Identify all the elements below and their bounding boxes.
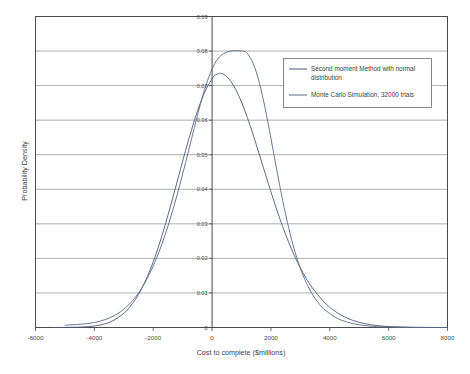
- x-tick-label: -2000: [145, 334, 161, 341]
- chart-canvas: -6000-4000-200002000400060008000 00.010.…: [0, 0, 470, 374]
- y-tick-label: 0.09: [197, 14, 208, 20]
- legend-label-second-moment-line2: distribution: [311, 74, 342, 81]
- y-tick-label: 0: [204, 325, 207, 331]
- y-tick-label: 0.05: [197, 152, 208, 158]
- x-tick-label: 8000: [441, 334, 455, 341]
- chart-background: [0, 0, 470, 374]
- y-tick-label: 0.02: [197, 255, 208, 261]
- y-tick-label: 0.08: [197, 48, 208, 54]
- legend-label-monte-carlo: Monte Carlo Simulation, 32000 trials: [311, 91, 414, 98]
- y-tick-label: 0.06: [197, 117, 208, 123]
- x-tick-label: -6000: [28, 334, 44, 341]
- x-tick-label: -4000: [86, 334, 102, 341]
- probability-density-chart: -6000-4000-200002000400060008000 00.010.…: [0, 0, 470, 374]
- y-tick-label: 0.07: [197, 83, 208, 89]
- x-tick-label: 6000: [382, 334, 396, 341]
- chart-legend: Second moment Method with normal distrib…: [284, 59, 432, 108]
- x-tick-label: 2000: [264, 334, 278, 341]
- y-tick-label: 0.01: [197, 290, 208, 296]
- x-tick-label: 4000: [323, 334, 337, 341]
- x-axis-title: Cost to complete ($millions): [197, 348, 286, 357]
- y-tick-label: 0.03: [197, 221, 208, 227]
- legend-label-second-moment-line1: Second moment Method with normal: [311, 65, 415, 72]
- y-tick-label: 0.04: [197, 186, 208, 192]
- x-tick-label: 0: [210, 334, 214, 341]
- y-axis-title: Probability Density: [20, 141, 29, 201]
